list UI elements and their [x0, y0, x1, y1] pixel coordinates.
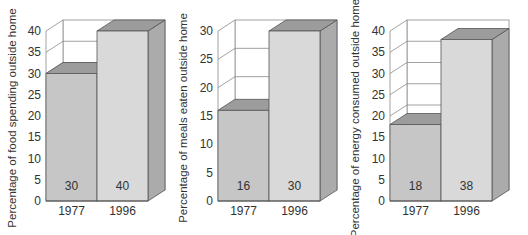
y-tick-label: 30	[28, 67, 42, 81]
data-label: 30	[65, 179, 79, 193]
data-label: 16	[237, 179, 251, 193]
y-tick-label: 0	[34, 194, 41, 208]
x-tick-label: 1996	[281, 204, 308, 218]
y-tick-label: 25	[28, 88, 42, 102]
y-axis-label: Percentage of food spending outside home	[6, 8, 18, 227]
x-tick-label: 1977	[402, 204, 429, 218]
y-tick-label: 20	[200, 81, 214, 95]
chart-1: 0510152025303540301977401996Percentage o…	[6, 8, 165, 227]
y-tick-label: 15	[200, 109, 214, 123]
x-tick-label: 1977	[58, 204, 85, 218]
bar-1996: 30	[269, 20, 337, 201]
y-tick-label: 40	[372, 24, 386, 38]
y-tick-label: 5	[206, 166, 213, 180]
y-tick-label: 5	[34, 173, 41, 187]
y-axis-label: Percentage of meals eaten outside home	[177, 13, 189, 223]
bar-1996: 40	[97, 20, 165, 201]
y-tick-label: 10	[200, 137, 214, 151]
y-tick-label: 35	[28, 45, 42, 59]
x-tick-label: 1977	[230, 204, 257, 218]
y-tick-label: 30	[200, 24, 214, 38]
y-tick-label: 30	[372, 67, 386, 81]
chart-2: 051015202530161977301996Percentage of me…	[177, 13, 337, 223]
data-label: 40	[116, 179, 130, 193]
y-axis-label: Percentage of energy consumed outside ho…	[349, 0, 361, 235]
y-tick-label: 25	[372, 88, 386, 102]
data-label: 30	[288, 179, 302, 193]
y-tick-label: 0	[378, 194, 385, 208]
y-tick-label: 10	[372, 152, 386, 166]
data-label: 18	[409, 179, 423, 193]
y-tick-label: 20	[28, 109, 42, 123]
y-tick-label: 15	[28, 130, 42, 144]
charts-canvas: 0510152025303540301977401996Percentage o…	[0, 0, 528, 235]
y-tick-label: 15	[372, 130, 386, 144]
y-tick-label: 25	[200, 52, 214, 66]
x-tick-label: 1996	[109, 204, 136, 218]
y-tick-label: 0	[206, 194, 213, 208]
y-tick-label: 5	[378, 173, 385, 187]
data-label: 38	[460, 179, 474, 193]
y-tick-label: 35	[372, 45, 386, 59]
y-tick-label: 40	[28, 24, 42, 38]
y-tick-label: 10	[28, 152, 42, 166]
bar-1996: 38	[441, 29, 509, 202]
y-tick-label: 20	[372, 109, 386, 123]
chart-3: 0510152025303540181977381996Percentage o…	[349, 0, 509, 235]
x-tick-label: 1996	[453, 204, 480, 218]
